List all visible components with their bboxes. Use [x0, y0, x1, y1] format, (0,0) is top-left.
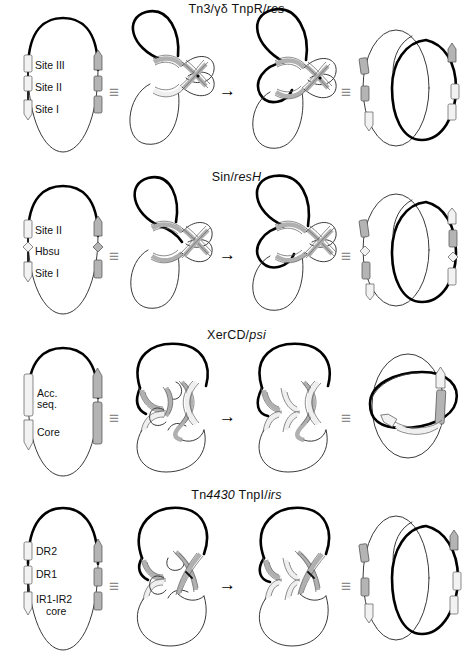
substrate-diagram-tn3 — [8, 0, 118, 168]
reaction-arrow: → — [219, 82, 236, 99]
substrate-diagram-tn4430 — [8, 486, 118, 665]
site-label-seq: seq. — [37, 399, 57, 410]
synapse-diagram-tn4430 — [120, 486, 230, 665]
post-complex-diagram-sin — [240, 168, 350, 326]
site-label-core: core — [46, 606, 66, 618]
synaptic-complex-tn4430 — [120, 486, 220, 665]
synaptic-complex-tn3 — [120, 0, 220, 168]
site-label-site-i: Site I — [35, 268, 59, 280]
reaction-arrow: → — [219, 576, 236, 593]
synapse-diagram-sin — [120, 168, 225, 326]
catenane-diagram-tn4430 — [352, 486, 470, 665]
site-marker-group-left — [24, 542, 32, 615]
site-label-site-iii: Site III — [35, 60, 65, 72]
equivalence-symbol: ≡ — [341, 410, 351, 427]
post-complex-diagram-tn3 — [240, 0, 350, 168]
recombination-figure: Tn3/γδ TnpR/res S — [0, 0, 473, 665]
reaction-arrow: → — [219, 408, 236, 425]
site-marker-group-knot — [378, 367, 445, 434]
equivalence-symbol: ≡ — [109, 578, 119, 595]
site-label-core: Core — [37, 427, 60, 439]
site-marker-group-right-circle — [450, 530, 461, 614]
site-label-site-i: Site I — [35, 104, 59, 116]
product-topology-xercd — [352, 326, 470, 486]
equivalence-symbol: ≡ — [109, 248, 119, 265]
site-marker-group-left-circle — [359, 544, 373, 623]
site-marker-group-right-circle — [448, 43, 459, 120]
substrate-tn3: Site III Site II Site I — [8, 0, 118, 168]
site-label-site-ii: Site II — [35, 225, 62, 237]
post-recombination-complex-xercd — [240, 326, 350, 486]
row-tn4430: Tn4430 TnpI/irs DR2 DR1 IR1- — [0, 486, 473, 665]
site-marker-group-right-circle — [448, 208, 458, 285]
site-marker-group-right — [94, 539, 102, 610]
synaptic-complex-sin — [120, 168, 220, 326]
reaction-arrow: → — [219, 246, 236, 263]
post-recombination-complex-tn3 — [240, 0, 350, 168]
site-label-dr1: DR1 — [36, 569, 57, 581]
row-xercd: XerCD/psi Acc. seq. Core ≡ — [0, 326, 473, 486]
site-marker-group-left-circle — [359, 58, 373, 131]
substrate-tn4430: DR2 DR1 IR1-IR2 core — [8, 486, 118, 665]
row-tn3: Tn3/γδ TnpR/res S — [0, 0, 473, 168]
site-marker-group-right — [94, 50, 102, 113]
site-label-site-ii: Site II — [35, 82, 62, 94]
post-complex-diagram-tn4430 — [240, 486, 350, 665]
post-recombination-complex-sin — [240, 168, 350, 326]
site-label-ir1-ir2: IR1-IR2 — [36, 594, 72, 606]
site-marker-group-left — [24, 55, 32, 120]
site-label-hbsu: Hbsu — [35, 246, 60, 258]
equivalence-symbol: ≡ — [341, 578, 351, 595]
site-marker-group-right — [93, 368, 102, 444]
equivalence-symbol: ≡ — [109, 84, 119, 101]
substrate-sin: Site II Hbsu Site I — [8, 168, 118, 326]
synaptic-complex-xercd — [120, 326, 220, 486]
equivalence-symbol: ≡ — [341, 248, 351, 265]
product-topology-tn3 — [352, 0, 470, 168]
product-topology-tn4430 — [352, 486, 470, 665]
catenane-diagram-tn3 — [352, 0, 470, 168]
substrate-diagram-sin — [8, 168, 118, 326]
synapse-diagram-xercd — [120, 326, 230, 486]
site-label-dr2: DR2 — [36, 546, 57, 558]
post-recombination-complex-tn4430 — [240, 486, 350, 665]
row-sin: Sin/resH Site II Hbsu Site I — [0, 168, 473, 326]
knot-diagram-xercd — [352, 326, 470, 486]
equivalence-symbol: ≡ — [341, 84, 351, 101]
catenane-diagram-sin — [352, 168, 470, 326]
post-complex-diagram-xercd — [240, 326, 350, 486]
site-marker-group-left-circle — [359, 220, 374, 300]
site-marker-group-left — [24, 374, 33, 450]
substrate-xercd: Acc. seq. Core — [8, 326, 118, 486]
site-marker-group-right — [93, 216, 103, 278]
site-marker-group-left — [23, 220, 33, 282]
synapse-diagram-tn3 — [120, 0, 225, 168]
equivalence-symbol: ≡ — [109, 410, 119, 427]
substrate-diagram-xercd — [8, 326, 118, 486]
product-topology-sin — [352, 168, 470, 326]
